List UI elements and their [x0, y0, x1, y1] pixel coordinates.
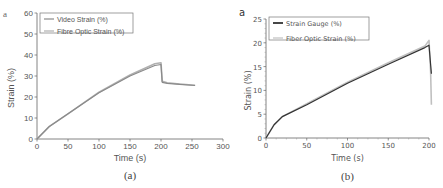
x-tick-label: 50: [64, 142, 73, 151]
figure-caption: (a): [124, 169, 137, 182]
legend-label: Strain Gauge (%): [286, 20, 342, 28]
y-tick-label: 60: [24, 9, 33, 18]
legend-label: Fiber Optic Strain (%): [286, 35, 356, 43]
y-tick-label: 40: [24, 51, 33, 60]
x-tick-label: 150: [382, 142, 395, 150]
y-tick-label: 0: [29, 135, 34, 144]
figure: 0501001502002503000102030405060Time (s)S…: [0, 0, 443, 188]
legend-label: Fibre Optic Strain (%): [57, 28, 124, 36]
x-tick-label: 150: [123, 142, 137, 151]
x-tick-label: 50: [302, 142, 311, 150]
legend: Video Strain (%)Fibre Optic Strain (%): [40, 13, 133, 36]
x-axis-title: Time (s): [330, 154, 364, 163]
x-tick-label: 100: [92, 142, 106, 151]
y-tick-label: 30: [24, 72, 33, 81]
x-tick-label: 0: [35, 142, 40, 151]
chart-panel-b: 0501001502000510152025Time (s)Strain (%)…: [239, 7, 436, 183]
x-tick-label: 200: [154, 142, 168, 151]
x-axis-title: Time (s): [114, 153, 147, 163]
y-tick-label: 10: [253, 87, 262, 95]
y-tick-label: 50: [24, 30, 33, 39]
chart-panel-a: 0501001502002503000102030405060Time (s)S…: [3, 9, 230, 182]
series-line-1: [37, 63, 195, 139]
y-tick-label: 15: [253, 64, 262, 72]
x-tick-label: 250: [185, 142, 199, 151]
x-tick-label: 0: [264, 142, 268, 150]
y-tick-label: 20: [253, 40, 262, 48]
x-tick-label: 100: [341, 142, 354, 150]
panel-letter: a: [239, 7, 245, 18]
legend-label: Video Strain (%): [57, 16, 108, 24]
y-tick-label: 5: [258, 111, 262, 119]
series-line-1: [266, 40, 431, 138]
y-axis-title: Strain (%): [6, 68, 16, 108]
x-tick-label: 200: [422, 142, 435, 150]
figure-caption: (b): [341, 170, 354, 183]
legend: Strain Gauge (%)Fiber Optic Strain (%): [269, 17, 369, 43]
y-tick-label: 0: [258, 135, 262, 143]
panel-letter: a: [3, 9, 7, 19]
x-tick-label: 300: [216, 142, 230, 151]
series-line-0: [266, 45, 431, 138]
y-tick-label: 20: [24, 93, 33, 102]
series-line-0: [37, 65, 195, 140]
y-tick-label: 25: [253, 16, 262, 24]
y-axis-title: Strain (%): [244, 70, 253, 110]
y-tick-label: 10: [24, 114, 33, 123]
